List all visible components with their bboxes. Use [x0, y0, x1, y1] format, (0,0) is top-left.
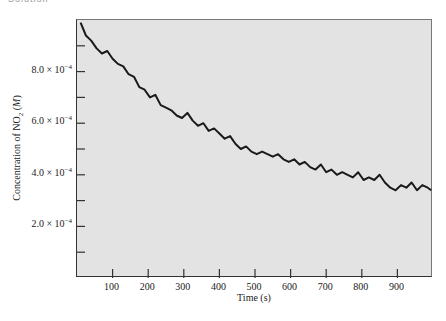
y-tick-label: 4.0 × 10−4 — [31, 166, 72, 178]
x-tick-label: 200 — [140, 281, 155, 292]
plot-area — [76, 19, 432, 277]
x-tick-label: 100 — [104, 281, 119, 292]
x-tick-label: 500 — [247, 281, 262, 292]
y-axis-title: Concentration of NO2 (M) — [11, 95, 25, 200]
x-tick-label: 900 — [389, 281, 404, 292]
y-tick-label: 6.0 × 10−4 — [31, 114, 72, 126]
line-chart — [77, 20, 433, 278]
x-tick-label: 800 — [353, 281, 368, 292]
x-tick-label: 300 — [175, 281, 190, 292]
section-header-partial: Solution — [8, 0, 49, 4]
x-axis-title: Time (s) — [237, 292, 271, 303]
data-line — [81, 23, 432, 191]
y-tick-label: 8.0 × 10−4 — [31, 63, 72, 75]
x-tick-label: 600 — [282, 281, 297, 292]
y-tick-label: 2.0 × 10−4 — [31, 217, 72, 229]
x-tick-label: 400 — [211, 281, 226, 292]
x-tick-label: 700 — [318, 281, 333, 292]
